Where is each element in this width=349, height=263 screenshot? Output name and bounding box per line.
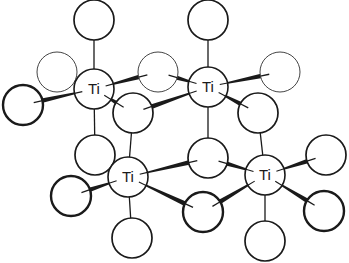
oxygen-atom bbox=[74, 0, 114, 40]
oxygen-atom bbox=[113, 93, 153, 133]
oxygen-atom bbox=[188, 138, 228, 178]
titanium-label: Ti bbox=[259, 166, 271, 183]
titanium-label: Ti bbox=[122, 168, 134, 185]
titanium-atom: Ti bbox=[245, 155, 285, 195]
titanium-label: Ti bbox=[202, 78, 214, 95]
titanium-atom: Ti bbox=[188, 67, 228, 107]
titanium-atom: Ti bbox=[108, 157, 148, 197]
titanium-atom: Ti bbox=[74, 69, 114, 109]
oxygen-atom bbox=[306, 135, 346, 175]
titanium-label: Ti bbox=[88, 80, 100, 97]
titanium-oxide-structure-diagram: TiTiTiTi bbox=[0, 0, 349, 263]
oxygen-atoms bbox=[3, 0, 346, 261]
oxygen-atom bbox=[112, 218, 152, 258]
bond-line bbox=[130, 133, 132, 157]
oxygen-atom bbox=[188, 0, 228, 40]
oxygen-atom bbox=[260, 52, 300, 92]
bond-line bbox=[129, 197, 130, 218]
oxygen-atom bbox=[238, 93, 278, 133]
oxygen-atom bbox=[51, 176, 91, 216]
oxygen-atom bbox=[304, 191, 344, 231]
oxygen-atom bbox=[245, 221, 285, 261]
oxygen-atom bbox=[3, 85, 43, 125]
oxygen-atom bbox=[37, 52, 77, 92]
oxygen-atom bbox=[183, 192, 223, 232]
oxygen-atom bbox=[138, 52, 178, 92]
bond-line bbox=[260, 133, 263, 155]
